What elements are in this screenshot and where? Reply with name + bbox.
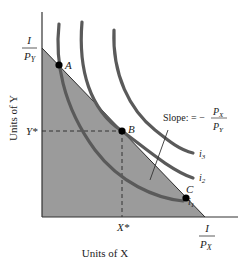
point-b-label: B: [128, 123, 135, 135]
point-a-marker: [55, 61, 62, 68]
x-star-label: X*: [116, 221, 130, 233]
y-intercept-numerator: I: [26, 34, 32, 46]
slope-label-prefix: Slope: = −: [163, 112, 205, 123]
x-intercept-numerator: I: [204, 222, 210, 234]
y-intercept-denominator: PY: [23, 50, 37, 64]
point-c-label: C: [186, 183, 194, 195]
curve-label-i2: i2: [199, 172, 206, 185]
indifference-curve-diagram: A B C I PY Y* Units of Y X* I PX Units o…: [0, 0, 245, 264]
y-star-label: Y*: [26, 125, 38, 137]
slope-denominator: PY: [212, 121, 224, 134]
x-intercept-denominator: PX: [199, 238, 213, 252]
point-b-marker: [118, 127, 125, 134]
slope-numerator: PX: [212, 106, 224, 119]
point-a-label: A: [64, 59, 72, 71]
y-axis-label: Units of Y: [7, 95, 19, 141]
x-axis-label: Units of X: [82, 247, 129, 259]
curve-label-i3: i3: [199, 148, 206, 161]
